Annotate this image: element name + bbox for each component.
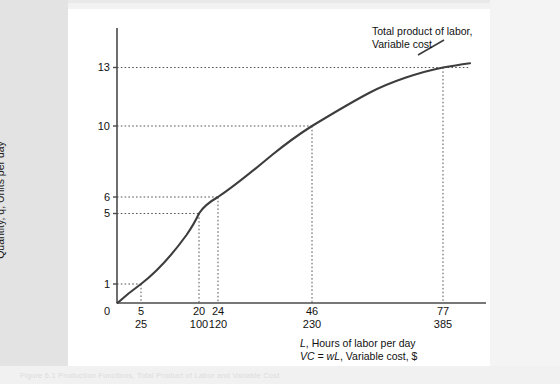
figure-root: Quantity, q, Units per day 13 10 6 5 1 0… <box>0 0 560 384</box>
x-axis-label-cost-text: , Variable cost, $ <box>340 350 417 362</box>
x-axis-label-cost-symbol: VC = wL <box>300 350 340 362</box>
x-axis-label-cost: VC = wL, Variable cost, $ <box>300 350 500 363</box>
y-tick-label-1: 1 <box>84 278 110 290</box>
x-tick-label-L-77: 77 <box>423 305 463 317</box>
curve-annotation-line1: Total product of labor, <box>372 25 472 38</box>
y-tick-label-6: 6 <box>84 191 110 203</box>
x-axis-label-labor-text: , Hours of labor per day <box>306 337 416 349</box>
total-product-of-labor-curve <box>118 63 471 303</box>
y-tick-label-13: 13 <box>84 61 110 73</box>
x-tick-label-L-24: 24 <box>198 305 238 317</box>
y-tick-label-5: 5 <box>84 207 110 219</box>
x-axis-label-labor: L, Hours of labor per day <box>300 337 500 350</box>
curve-annotation-line2: Variable cost <box>372 38 472 51</box>
x-tick-label-VC-385: 385 <box>423 318 463 330</box>
y-tick-label-10: 10 <box>84 120 110 132</box>
figure-caption: Figure 6.1 Production Functions, Total P… <box>20 371 540 380</box>
x-tick-label-VC-120: 120 <box>198 318 238 330</box>
x-tick-label-VC-25: 25 <box>121 318 161 330</box>
x-tick-label-L-5: 5 <box>121 305 161 317</box>
origin-label: 0 <box>104 305 110 317</box>
y-axis-label: Quantity, q, Units per day <box>0 100 6 300</box>
x-tick-label-L-46: 46 <box>292 305 332 317</box>
vertical-guide-lines <box>141 68 443 304</box>
x-axis-label-block: L, Hours of labor per day VC = wL, Varia… <box>300 337 500 363</box>
x-tick-label-VC-230: 230 <box>292 318 332 330</box>
curve-annotation: Total product of labor, Variable cost <box>372 25 472 51</box>
horizontal-guide-lines <box>117 68 470 285</box>
